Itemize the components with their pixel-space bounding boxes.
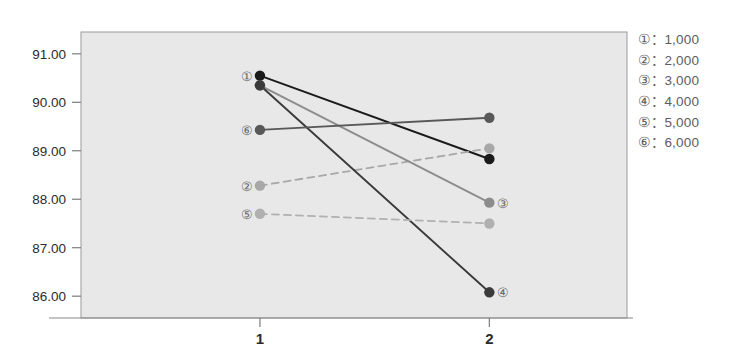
data-point [484, 154, 494, 164]
data-point [255, 80, 265, 90]
legend-symbol: ④： [638, 92, 664, 113]
series-point-label: ④ [497, 285, 509, 300]
x-axis-tick-label: 1 [256, 330, 264, 347]
legend-item: ③：3,000 [638, 71, 734, 92]
plot-area [81, 32, 627, 318]
data-point [484, 197, 494, 207]
y-axis-tick-label: 87.00 [32, 241, 66, 256]
y-axis-tick-label: 88.00 [32, 192, 66, 207]
data-point [484, 113, 494, 123]
legend-value: 3,000 [664, 71, 699, 92]
chart-legend: ①：1,000 ②：2,000 ③：3,000 ④：4,000 ⑤：5,000 … [638, 30, 734, 154]
legend-item: ①：1,000 [638, 30, 734, 51]
data-point [255, 70, 265, 80]
data-point [484, 287, 494, 297]
legend-item: ④：4,000 [638, 92, 734, 113]
legend-symbol: ①： [638, 30, 664, 51]
y-axis-tick-label: 90.00 [32, 95, 66, 110]
legend-value: 4,000 [664, 92, 699, 113]
legend-item: ⑥：6,000 [638, 133, 734, 154]
y-axis-tick-label: 86.00 [32, 289, 66, 304]
legend-value: 6,000 [664, 133, 699, 154]
y-axis-tick-label: 89.00 [32, 144, 66, 159]
data-point [255, 209, 265, 219]
legend-item: ⑤：5,000 [638, 113, 734, 134]
line-chart: 91.0090.0089.0088.0087.0086.0012①②③④⑤⑥ [0, 0, 734, 363]
legend-value: 2,000 [664, 51, 699, 72]
data-point [255, 125, 265, 135]
data-point [255, 180, 265, 190]
data-point [484, 218, 494, 228]
series-point-label: ⑥ [241, 123, 253, 138]
series-point-label: ⑤ [241, 207, 253, 222]
legend-symbol: ⑥： [638, 133, 664, 154]
legend-symbol: ③： [638, 71, 664, 92]
legend-symbol: ⑤： [638, 113, 664, 134]
data-point [484, 143, 494, 153]
legend-symbol: ②： [638, 51, 664, 72]
legend-value: 1,000 [664, 30, 699, 51]
series-point-label: ② [241, 179, 253, 194]
legend-item: ②：2,000 [638, 51, 734, 72]
y-axis-tick-label: 91.00 [32, 47, 66, 62]
series-point-label: ③ [497, 196, 509, 211]
series-point-label: ① [241, 69, 253, 84]
chart-canvas: 91.0090.0089.0088.0087.0086.0012①②③④⑤⑥ [0, 0, 734, 363]
x-axis-tick-label: 2 [485, 330, 493, 347]
legend-value: 5,000 [664, 113, 699, 134]
